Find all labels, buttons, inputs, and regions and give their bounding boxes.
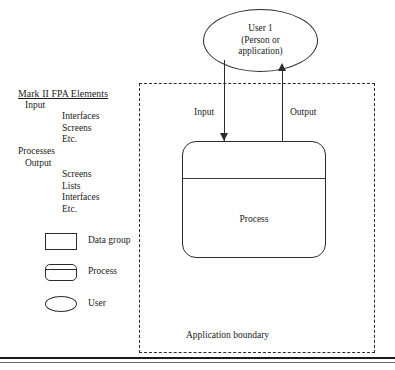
data-group-symbol-icon <box>45 233 77 250</box>
element-row: Interfaces <box>18 192 138 204</box>
user-node-line-3: application) <box>238 46 282 57</box>
element-row: Output <box>18 158 138 170</box>
legend-label: Data group <box>88 235 130 245</box>
element-row: Etc. <box>18 134 138 146</box>
elements-list-title: Mark II FPA Elements <box>18 88 138 100</box>
application-boundary-label: Application boundary <box>186 330 269 340</box>
user-node: User 1 (Person or application) <box>203 9 318 72</box>
legend-label: Process <box>88 266 117 276</box>
element-row: Processes <box>18 146 138 158</box>
input-flow-line <box>224 60 225 141</box>
element-row: Etc. <box>18 204 138 216</box>
process-node-divider <box>183 178 325 179</box>
input-arrowhead-icon <box>220 133 228 141</box>
footer-rule-thin <box>0 362 395 363</box>
element-row: Lists <box>18 181 138 193</box>
legend-label: User <box>88 298 106 308</box>
user-node-line-2: (Person or <box>241 35 279 46</box>
input-flow-label: Input <box>192 107 216 117</box>
element-row: Screens <box>18 123 138 135</box>
output-flow-label: Output <box>288 107 318 117</box>
mark-ii-fpa-elements-list: Mark II FPA Elements Input Interfaces Sc… <box>18 88 138 216</box>
process-node: Process <box>182 141 326 258</box>
footer-rule-thick <box>0 357 395 359</box>
element-row: Screens <box>18 169 138 181</box>
element-row: Input <box>18 100 138 112</box>
process-node-label: Process <box>183 214 325 224</box>
output-flow-line <box>282 70 283 141</box>
figure-canvas: Mark II FPA Elements Input Interfaces Sc… <box>0 0 395 370</box>
process-symbol-icon <box>45 264 77 281</box>
output-arrowhead-icon <box>278 63 286 71</box>
user-symbol-icon <box>45 296 77 312</box>
user-node-line-1: User 1 <box>248 23 273 34</box>
element-row: Interfaces <box>18 111 138 123</box>
